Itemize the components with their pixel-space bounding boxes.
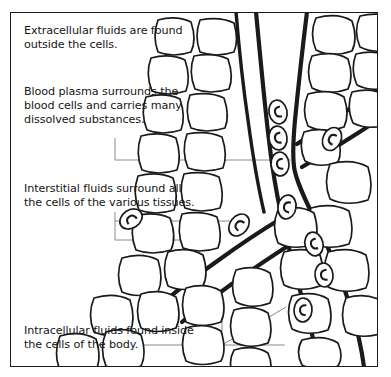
tissue-cell: [179, 213, 220, 251]
tissue-cell: [353, 52, 378, 89]
tissue-cells-left-upper: [132, 18, 236, 253]
tissue-cell: [305, 92, 348, 131]
tissue-cell: [183, 286, 225, 326]
red-blood-cell: [267, 98, 290, 125]
red-blood-cell: [270, 151, 290, 176]
tissue-cell: [349, 90, 378, 127]
red-blood-cell: [225, 210, 254, 240]
tissue-cell: [309, 54, 352, 93]
figure-root: Extracellular fluids are found outside t…: [0, 0, 391, 377]
tissue-cell: [165, 250, 207, 290]
caption-blood-plasma: Blood plasma surrounds the blood cells a…: [24, 85, 206, 127]
caption-interstitial-fluids: Interstitial fluids surround all the cel…: [24, 182, 206, 210]
red-blood-cell: [293, 297, 313, 322]
tissue-cell: [184, 133, 225, 171]
tissue-cell: [357, 14, 379, 51]
caption-intracellular-fluids: Intracellular fluids found inside the ce…: [24, 324, 214, 352]
tissue-cell: [299, 338, 342, 367]
tissue-cell: [233, 268, 274, 307]
tissue-cell: [138, 134, 179, 173]
tissue-cell: [327, 162, 372, 204]
tissue-cell: [119, 255, 162, 295]
tissue-cell: [231, 348, 272, 367]
tissue-cell: [343, 296, 379, 337]
caption-extracellular-fluids: Extracellular fluids are found outside t…: [24, 24, 206, 52]
tissue-cell: [231, 308, 272, 347]
tissue-cell: [313, 16, 356, 55]
